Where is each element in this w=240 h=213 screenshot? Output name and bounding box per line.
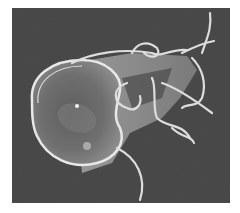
bright-spot: [75, 104, 79, 108]
small-bump: [83, 142, 91, 150]
micrograph-photo: [12, 8, 230, 203]
micrograph-illustration: [12, 8, 230, 203]
